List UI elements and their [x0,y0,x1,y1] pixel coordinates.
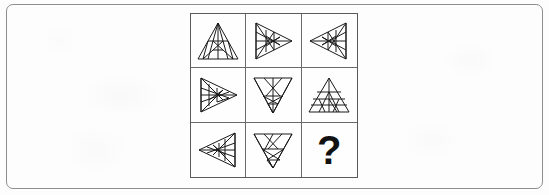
puzzle-cell-9-answer-slot[interactable]: ? [302,123,357,177]
triangle-down-icon [250,129,296,171]
puzzle-cell-1[interactable] [191,14,246,68]
triangle-up-banded-icon [305,74,353,116]
puzzle-cell-2[interactable] [246,14,301,68]
puzzle-cell-7[interactable] [191,123,246,177]
puzzle-cell-8[interactable] [246,123,301,177]
triangle-up-icon [195,20,241,62]
triangle-right-icon [250,20,296,62]
triangle-left-icon [306,20,352,62]
triangle-down-icon [250,74,296,116]
puzzle-cell-5[interactable] [246,68,301,122]
puzzle-cell-6[interactable] [302,68,357,122]
triangle-right-icon [195,74,241,116]
puzzle-cell-4[interactable] [191,68,246,122]
puzzle-cell-3[interactable] [302,14,357,68]
puzzle-matrix-grid: ? [190,13,358,178]
triangle-left-icon [195,129,241,171]
question-mark-label: ? [317,130,341,170]
